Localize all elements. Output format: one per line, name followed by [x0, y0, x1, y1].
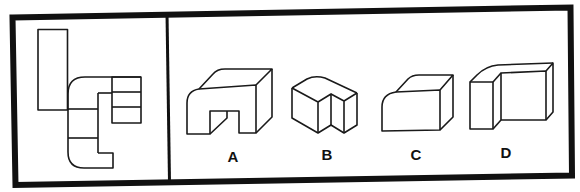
unfolded-net — [38, 30, 141, 169]
option-d-label[interactable]: D — [501, 144, 512, 161]
option-a-figure — [187, 69, 272, 134]
option-c-figure — [382, 75, 453, 131]
option-c-label[interactable]: C — [411, 146, 422, 163]
option-d-figure — [470, 63, 553, 129]
option-a-label[interactable]: A — [228, 148, 239, 165]
option-b-figure — [292, 77, 357, 133]
puzzle-figure: A B C D — [0, 0, 580, 192]
panel-divider — [167, 13, 170, 182]
option-b-label[interactable]: B — [322, 146, 333, 163]
